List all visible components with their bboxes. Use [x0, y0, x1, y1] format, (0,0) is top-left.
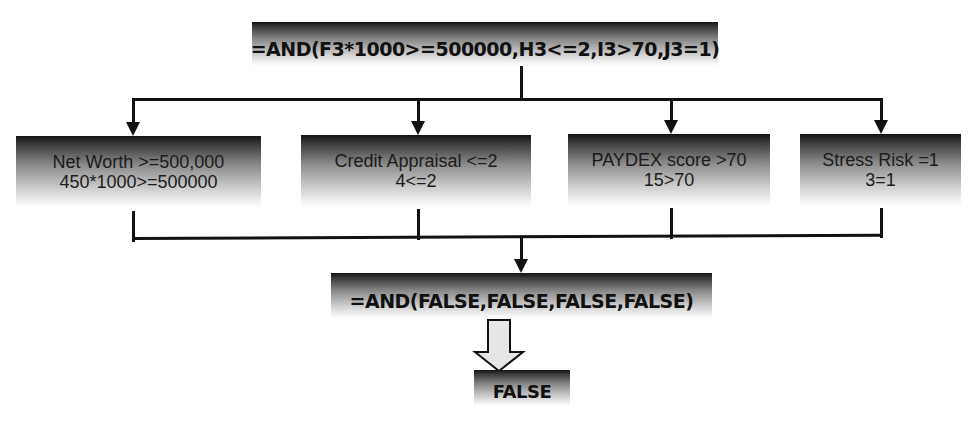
- condition-evaluation: 450*1000>=500000: [59, 172, 217, 192]
- evaluated-formula-text: =AND(FALSE,FALSE,FALSE,FALSE): [350, 290, 694, 312]
- connector-merge-stem: [520, 238, 523, 260]
- condition-evaluation: 15>70: [644, 170, 695, 190]
- condition-box-net-worth: Net Worth >=500,000 450*1000>=500000: [16, 136, 261, 208]
- connector-drop-1: [132, 98, 135, 124]
- result-text: FALSE: [493, 381, 551, 402]
- arrowhead-down-icon: [664, 120, 678, 134]
- condition-label: Net Worth >=500,000: [53, 152, 225, 172]
- connector-drop-4: [880, 98, 883, 122]
- connector-branch-line: [132, 98, 883, 101]
- condition-evaluation: 3=1: [865, 170, 896, 190]
- condition-label: PAYDEX score >70: [592, 150, 747, 170]
- arrowhead-down-icon: [514, 259, 528, 273]
- top-formula-text: =AND(F3*1000>=500000,H3<=2,I3>70,J3=1): [251, 38, 720, 60]
- connector-drop-3: [670, 98, 673, 122]
- arrowhead-down-icon: [874, 120, 888, 134]
- top-formula-box: =AND(F3*1000>=500000,H3<=2,I3>70,J3=1): [252, 22, 718, 66]
- condition-label: Stress Risk =1: [822, 150, 939, 170]
- condition-box-credit-appraisal: Credit Appraisal <=2 4<=2: [301, 135, 531, 207]
- connector-merge-line: [132, 234, 883, 240]
- connector-top-stem: [520, 66, 523, 101]
- result-box: FALSE: [474, 370, 570, 406]
- connector-drop-2: [417, 98, 420, 123]
- condition-evaluation: 4<=2: [395, 171, 436, 191]
- condition-box-stress-risk: Stress Risk =1 3=1: [800, 134, 961, 206]
- arrowhead-down-icon: [411, 121, 425, 135]
- block-arrow-down-icon: [472, 319, 526, 373]
- condition-label: Credit Appraisal <=2: [334, 151, 497, 171]
- arrowhead-down-icon: [126, 122, 140, 136]
- evaluated-formula-box: =AND(FALSE,FALSE,FALSE,FALSE): [331, 273, 712, 318]
- condition-box-paydex-score: PAYDEX score >70 15>70: [568, 134, 770, 206]
